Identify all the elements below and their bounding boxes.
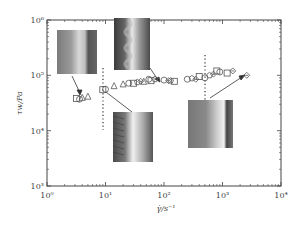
data-point-square: [196, 74, 202, 80]
x-tick-label: 10²: [157, 191, 170, 200]
x-axis-title: γ̇/s⁻¹: [156, 204, 175, 213]
data-point-circle: [146, 76, 152, 82]
y-axis-title: τw/Pa: [15, 91, 24, 115]
inset-smooth-high: [188, 100, 233, 148]
y-tick-label: 10⁵: [31, 71, 44, 80]
inset-helical: [113, 112, 153, 162]
data-point-square: [224, 70, 230, 76]
data-point-triangle: [120, 81, 126, 87]
inset-smooth-low: [57, 30, 97, 74]
data-point-circle: [126, 80, 132, 86]
y-tick-label: 10³: [31, 182, 44, 191]
x-tick-label: 10³: [216, 191, 229, 200]
chart: 10⁰10¹10²10³10⁴10³10⁴10⁵10⁶ τw/Pa γ̇/s⁻¹: [0, 0, 295, 226]
y-tick-label: 10⁴: [31, 127, 44, 136]
inset-sharkskin: [114, 18, 150, 70]
data-point-triangle: [85, 93, 91, 99]
data-markers: [74, 68, 250, 102]
data-point-triangle: [111, 83, 117, 89]
x-tick-label: 10⁴: [274, 191, 287, 200]
y-tick-label: 10⁶: [31, 16, 44, 25]
x-tick-label: 10⁰: [40, 191, 53, 200]
x-tick-label: 10¹: [99, 191, 112, 200]
